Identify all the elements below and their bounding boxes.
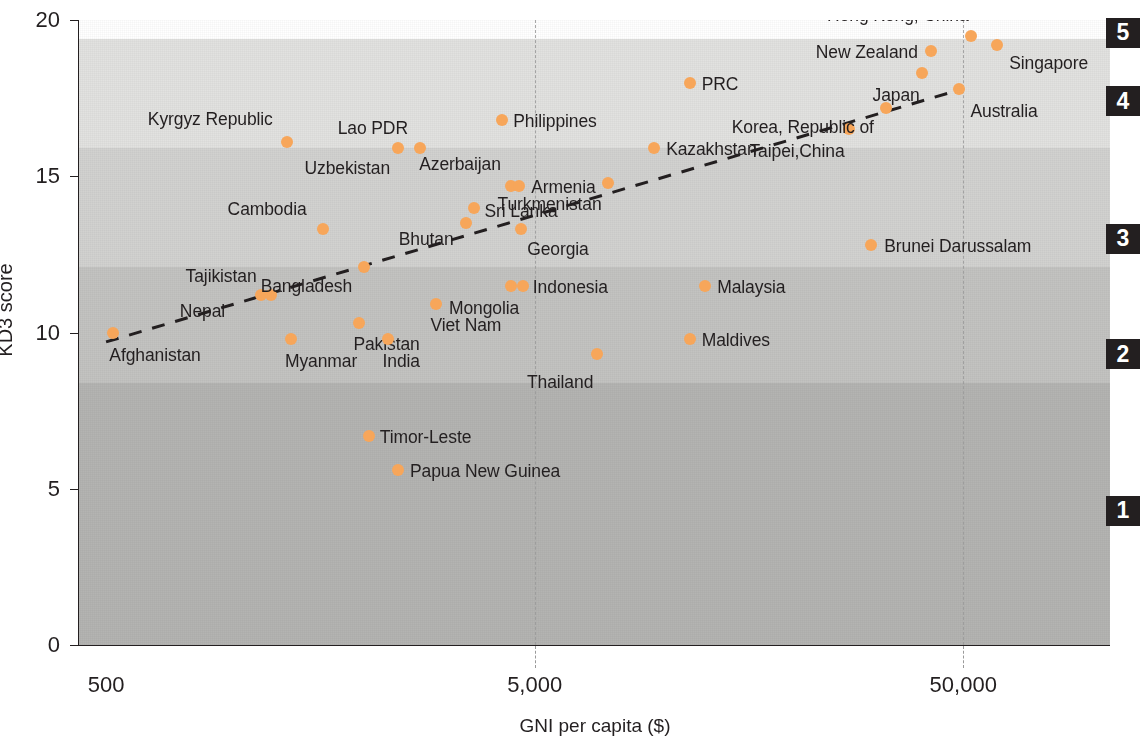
band-key-5: 5: [1106, 18, 1140, 48]
y-tick-mark: [70, 333, 78, 334]
data-point[interactable]: [505, 280, 517, 292]
data-point-label: Malaysia: [717, 276, 785, 297]
data-point-label: Papua New Guinea: [410, 461, 560, 482]
data-point-label: Brunei Darussalam: [884, 236, 1031, 257]
data-point-label: Turkmenistan: [497, 193, 601, 214]
gridline-x-50,000: [963, 20, 964, 645]
data-point[interactable]: [430, 298, 442, 310]
data-point-label: Kyrgyz Republic: [148, 108, 273, 129]
data-point[interactable]: [699, 280, 711, 292]
data-point-label: India: [382, 350, 419, 371]
data-point[interactable]: [991, 39, 1003, 51]
y-tick-label: 15: [36, 163, 60, 189]
data-point[interactable]: [317, 223, 329, 235]
data-point-label: Hong Kong, China: [827, 20, 968, 25]
data-point[interactable]: [107, 327, 119, 339]
data-point-label: Myanmar: [285, 350, 357, 371]
scatter-chart: AfghanistanNepalTajikistanMyanmarCambodi…: [0, 0, 1144, 753]
data-point-label: Afghanistan: [109, 344, 200, 365]
x-axis-line: [78, 645, 1110, 646]
y-tick-mark: [70, 20, 78, 21]
data-point-label: Japan: [873, 85, 920, 106]
data-point[interactable]: [468, 202, 480, 214]
x-axis-title: GNI per capita ($): [520, 715, 671, 737]
band-key-1: 1: [1106, 496, 1140, 526]
data-point[interactable]: [392, 142, 404, 154]
y-tick-label: 10: [36, 320, 60, 346]
data-point[interactable]: [285, 333, 297, 345]
data-point-label: PRC: [702, 73, 739, 94]
band-key-2: 2: [1106, 339, 1140, 369]
data-point[interactable]: [953, 83, 965, 95]
data-point[interactable]: [602, 177, 614, 189]
data-point-label: Georgia: [527, 239, 589, 260]
x-tick-label: 500: [88, 672, 125, 698]
y-tick-mark: [70, 489, 78, 490]
data-point[interactable]: [925, 45, 937, 57]
x-tick-mark: [535, 646, 536, 668]
data-point-label: Azerbaijan: [419, 153, 501, 174]
data-point[interactable]: [684, 333, 696, 345]
data-point[interactable]: [965, 30, 977, 42]
band-key-4: 4: [1106, 86, 1140, 116]
y-tick-label: 20: [36, 7, 60, 33]
data-point-label: Tajikistan: [186, 266, 257, 287]
data-point-label: Australia: [970, 100, 1037, 121]
data-point-label: Kazakhstan: [666, 139, 756, 160]
data-point-label: Bangladesh: [261, 275, 352, 296]
data-point[interactable]: [684, 77, 696, 89]
plot-area: AfghanistanNepalTajikistanMyanmarCambodi…: [78, 20, 1110, 645]
x-tick-label: 50,000: [930, 672, 997, 698]
data-point-label: Mongolia: [449, 297, 519, 318]
data-point-label: Taipei,China: [749, 141, 844, 162]
band-key-3: 3: [1106, 224, 1140, 254]
data-point[interactable]: [281, 136, 293, 148]
band-texture: [78, 383, 1110, 646]
data-point-label: Timor-Leste: [380, 426, 472, 447]
data-point[interactable]: [916, 67, 928, 79]
y-tick-mark: [70, 176, 78, 177]
y-tick-mark: [70, 645, 78, 646]
data-point-label: Korea, Republic of: [732, 116, 874, 137]
data-point[interactable]: [392, 464, 404, 476]
score-band-1: [78, 383, 1110, 646]
data-point[interactable]: [865, 239, 877, 251]
data-point-label: Maldives: [702, 329, 770, 350]
y-tick-label: 5: [48, 476, 60, 502]
data-point[interactable]: [648, 142, 660, 154]
y-axis-title: KD3 score: [0, 263, 17, 356]
data-point[interactable]: [358, 261, 370, 273]
data-point-label: Nepal: [180, 301, 225, 322]
data-point[interactable]: [517, 280, 529, 292]
x-tick-mark: [963, 646, 964, 668]
data-point[interactable]: [382, 333, 394, 345]
data-point-label: Bhutan: [399, 229, 454, 250]
data-point[interactable]: [591, 348, 603, 360]
data-point[interactable]: [513, 180, 525, 192]
data-point-label: Thailand: [527, 372, 593, 393]
data-point[interactable]: [496, 114, 508, 126]
data-point-label: Philippines: [513, 111, 597, 132]
y-tick-label: 0: [48, 632, 60, 658]
data-point[interactable]: [363, 430, 375, 442]
data-point-label: Lao PDR: [338, 118, 408, 139]
data-point[interactable]: [353, 317, 365, 329]
data-point[interactable]: [515, 223, 527, 235]
y-axis-line: [78, 20, 79, 645]
data-point-label: New Zealand: [816, 42, 918, 63]
data-point[interactable]: [460, 217, 472, 229]
data-point-label: Indonesia: [533, 276, 608, 297]
data-point-label: Uzbekistan: [304, 158, 390, 179]
data-point-label: Singapore: [1009, 53, 1088, 74]
data-point-label: Cambodia: [228, 199, 307, 220]
x-tick-label: 5,000: [507, 672, 562, 698]
